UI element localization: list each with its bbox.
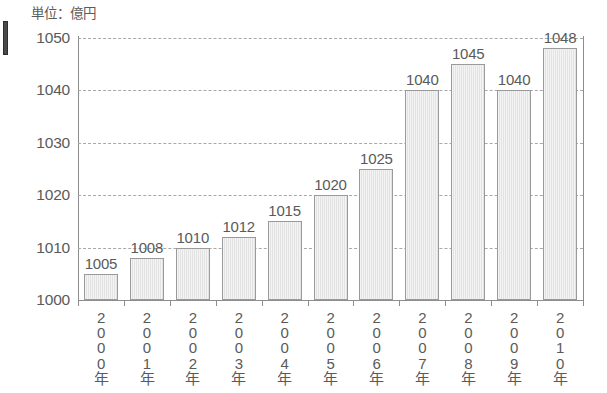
y-axis-tick-label: 1020 [10,186,70,204]
bar [497,90,531,300]
x-axis-tick [353,300,354,306]
x-axis-tick [170,300,171,306]
x-axis-category-label: 2000年 [78,310,124,386]
bar [268,221,302,300]
bar-value-label: 1015 [258,202,312,219]
x-axis-tick [445,300,446,306]
x-axis-tick [537,300,538,306]
bar [130,258,164,300]
x-axis-category-label: 2003年 [216,310,262,386]
chart-page: 単位：億円 100010101020103010401050 100510081… [0,0,607,393]
bar [176,248,210,300]
bar [543,48,577,300]
unit-label: 単位：億円 [31,2,96,22]
bar [359,169,393,300]
x-axis-category-label: 2010年 [537,310,583,386]
y-axis-tick-label: 1050 [10,29,70,47]
gridline [78,38,583,39]
bar-value-label: 1040 [395,71,449,88]
bar [222,237,256,300]
bar [314,195,348,300]
x-axis-tick [399,300,400,306]
x-axis-tick [308,300,309,306]
x-axis-tick [583,300,584,306]
x-axis-category-label: 2009年 [491,310,537,386]
x-axis-tick [262,300,263,306]
y-axis-tick-label: 1040 [10,81,70,99]
x-axis-category-label: 2002年 [170,310,216,386]
y-axis-tick-labels: 100010101020103010401050 [8,38,70,300]
bar-value-label: 1025 [349,150,403,167]
x-axis-category-label: 2001年 [124,310,170,386]
y-axis-tick-label: 1000 [10,291,70,309]
x-axis-tick [78,300,79,306]
bar [451,64,485,300]
bar-value-label: 1045 [441,45,495,62]
bar [405,90,439,300]
x-axis-tick [216,300,217,306]
x-axis-tick [124,300,125,306]
bar-value-label: 1040 [487,71,541,88]
x-axis-tick [491,300,492,306]
x-axis-category-label: 2008年 [445,310,491,386]
bar-value-label: 1048 [533,29,587,46]
x-axis-category-label: 2004年 [262,310,308,386]
bar-value-label: 1012 [212,218,266,235]
y-axis-tick-label: 1010 [10,239,70,257]
y-axis-tick-label: 1030 [10,134,70,152]
x-axis-category-label: 2007年 [399,310,445,386]
bar-value-label: 1005 [74,255,128,272]
x-axis-category-label: 2006年 [353,310,399,386]
x-axis-line [78,300,584,301]
bar-value-label: 1020 [304,176,358,193]
plot-right-border [583,36,584,301]
x-axis-category-label: 2005年 [308,310,354,386]
plot-area: 1005100810101012101510201025104010451040… [78,38,583,300]
bar [84,274,118,300]
